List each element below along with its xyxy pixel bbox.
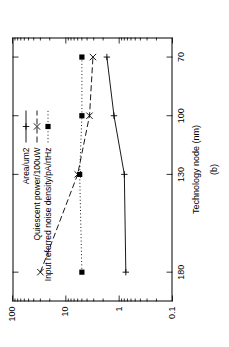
legend-label: Area/um2 bbox=[20, 143, 31, 285]
legend-item: Area/um2 bbox=[20, 109, 31, 285]
x-axis-title: Technology node (nm) bbox=[190, 124, 200, 213]
x-tick-label: 130 bbox=[176, 166, 185, 181]
legend-item: Quiescent power/100uW bbox=[31, 109, 42, 285]
y-tick-label: 100 bbox=[8, 306, 17, 321]
chart-figure: 0.111010018013010070Technology node (nm)… bbox=[0, 0, 229, 347]
chart-legend: Area/um2Quiescent power/100uWInput refer… bbox=[20, 109, 53, 285]
series-0 bbox=[103, 53, 128, 275]
x-tick-label: 180 bbox=[176, 264, 185, 279]
y-tick-label: 0.1 bbox=[168, 306, 177, 319]
legend-item: Input referred noise density/pA/rtHz bbox=[42, 109, 53, 285]
legend-label: Input referred noise density/pA/rtHz bbox=[42, 143, 53, 285]
y-tick-label: 1 bbox=[114, 306, 123, 311]
legend-sample-plus-icon bbox=[20, 109, 31, 143]
y-tick-label: 10 bbox=[61, 306, 70, 316]
legend-sample-filled-square-icon bbox=[42, 109, 53, 143]
figure-caption: (b) bbox=[208, 164, 218, 175]
legend-label: Quiescent power/100uW bbox=[31, 143, 42, 285]
legend-sample-cross-icon bbox=[31, 109, 42, 143]
x-tick-label: 100 bbox=[176, 108, 185, 123]
series-2 bbox=[77, 54, 84, 274]
figure-rotator: 0.111010018013010070Technology node (nm)… bbox=[0, 0, 229, 347]
x-tick-label: 70 bbox=[176, 52, 185, 62]
